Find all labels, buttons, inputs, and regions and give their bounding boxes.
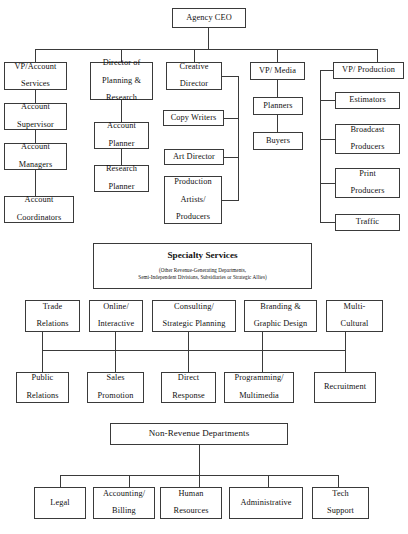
node-label-line1: Online/ — [91, 303, 141, 312]
node-label-line1: Consulting/ — [154, 303, 234, 312]
node-label-line2: Relations — [18, 392, 67, 401]
node-label-line2: Planner — [96, 183, 147, 192]
node-direct-response: Direct Response — [161, 372, 216, 403]
node-account-supervisor: Account Supervisor — [4, 103, 67, 130]
node-label: Legal — [36, 499, 84, 508]
node-label-line1: Sales — [89, 374, 142, 383]
connector-creative-stub-art — [224, 157, 238, 158]
node-label-line2: Artists/ — [166, 196, 220, 205]
node-label: Copy Writers — [165, 114, 222, 123]
node-label-line2: Resources — [162, 507, 220, 516]
node-specialty-services: Specialty Services (Other Revenue-Genera… — [93, 243, 312, 289]
node-director-planning-research: Director of Planning & Research — [90, 62, 153, 100]
connector-production-stub-estimators — [320, 100, 335, 101]
node-sales-promotion: Sales Promotion — [87, 372, 144, 403]
node-label-line1: Public — [18, 374, 67, 383]
node-buyers: Buyers — [253, 132, 303, 150]
connector-creative-stub-production — [222, 200, 238, 201]
connector-ceo-bus — [35, 49, 377, 50]
node-label-line1: Creative — [168, 63, 220, 72]
node-creative-director: Creative Director — [166, 62, 222, 90]
node-programming-multimedia: Programming/ Multimedia — [224, 372, 294, 403]
connector-specialty-down-5 — [345, 332, 346, 350]
node-public-relations: Public Relations — [16, 372, 69, 403]
node-label-line1: Director of — [92, 59, 151, 68]
node-vp-media: VP/ Media — [250, 62, 305, 80]
connector-bus-drop-creative — [194, 49, 195, 62]
node-label-line2: Relations — [27, 320, 78, 329]
node-multi-cultural: Multi- Cultural — [326, 300, 383, 332]
connector-media-2 — [277, 115, 278, 132]
node-account-managers: Account Managers — [4, 143, 67, 170]
connector-nonrevenue-drop-5 — [338, 475, 339, 487]
node-label-line1: Account — [6, 143, 65, 152]
connector-account-3 — [35, 170, 36, 196]
connector-production-stub-traffic — [320, 222, 335, 223]
node-label-line1: Branding & — [246, 303, 315, 312]
specialty-subtitle-line1: (Other Revenue-Generating Departments, — [159, 267, 246, 273]
node-label-line2: Planner — [96, 140, 147, 149]
node-label-line2: Promotion — [89, 392, 142, 401]
node-label-line2: Billing — [95, 507, 153, 516]
node-label-line1: Human — [162, 490, 220, 499]
specialty-title: Specialty Services — [167, 250, 237, 260]
node-label: Estimators — [337, 96, 398, 105]
connector-account-1 — [35, 90, 36, 103]
node-label-line1: Trade — [27, 303, 78, 312]
node-label: Planners — [255, 102, 301, 111]
node-trade-relations: Trade Relations — [25, 300, 80, 332]
node-accounting-billing: Accounting/ Billing — [93, 487, 155, 519]
connector-nonrevenue-drop-1 — [60, 475, 61, 487]
node-legal: Legal — [34, 487, 86, 519]
node-label: Art Director — [166, 153, 222, 162]
node-label-line1: Multi- — [328, 303, 381, 312]
connector-production-stub-print — [320, 183, 335, 184]
node-label-line2: Support — [314, 507, 367, 516]
connector-bus-drop-account — [35, 49, 36, 62]
node-label-line1: Research — [96, 165, 147, 174]
connector-specialty-up-4 — [262, 350, 263, 372]
node-non-revenue-departments: Non-Revenue Departments — [110, 423, 288, 445]
node-label-line2: Coordinators — [6, 214, 72, 223]
connector-specialty-up-3 — [188, 350, 189, 372]
node-label-line1: Account — [96, 122, 147, 131]
node-traffic: Traffic — [335, 214, 400, 231]
specialty-subtitle-line2: Semi-Independent Divisions, Subsidiaries… — [138, 274, 266, 280]
connector-bus-drop-production — [377, 49, 378, 62]
node-label: VP/ Media — [252, 67, 303, 76]
node-art-director: Art Director — [164, 149, 224, 165]
node-label: Buyers — [255, 137, 301, 146]
node-label-line1: VP/Account — [6, 63, 65, 72]
node-tech-support: Tech Support — [312, 487, 369, 519]
node-label-line1: Accounting/ — [95, 490, 153, 499]
node-label: VP/ Production — [335, 66, 402, 75]
connector-specialty-down-1 — [42, 332, 43, 350]
node-planners: Planners — [253, 97, 303, 115]
node-label: Agency CEO — [174, 14, 244, 23]
connector-planning-2 — [121, 149, 122, 165]
connector-nonrevenue-drop-4 — [268, 475, 269, 487]
node-label-line1: Print — [337, 170, 398, 179]
node-label-line1: Account — [6, 196, 72, 205]
node-label-line1: Production — [166, 178, 220, 187]
connector-bus-drop-media — [277, 49, 278, 62]
node-research-planner: Research Planner — [94, 165, 149, 192]
node-branding-graphic-design: Branding & Graphic Design — [244, 300, 317, 332]
node-label: Recruitment — [316, 383, 374, 392]
connector-production-rail — [320, 70, 321, 222]
node-label-line1: Account — [6, 103, 65, 112]
node-label-line2: Cultural — [328, 320, 381, 329]
node-label-line1: Broadcast — [337, 126, 398, 135]
node-production-artists-producers: Production Artists/ Producers — [164, 176, 222, 224]
node-label-line1: Direct — [163, 374, 214, 383]
node-label-line1: Tech — [314, 490, 367, 499]
connector-media-1 — [277, 80, 278, 97]
org-chart: Agency CEO VP/Account Services Account S… — [0, 0, 408, 534]
connector-specialty-up-5 — [345, 350, 346, 372]
node-vp-account-services: VP/Account Services — [4, 62, 67, 90]
node-label-line2: Producers — [337, 143, 398, 152]
node-label-line2: Managers — [6, 161, 65, 170]
connector-specialty-down-4 — [262, 332, 263, 350]
node-agency-ceo: Agency CEO — [172, 8, 246, 28]
connector-nonrevenue-drop-2 — [129, 475, 130, 487]
